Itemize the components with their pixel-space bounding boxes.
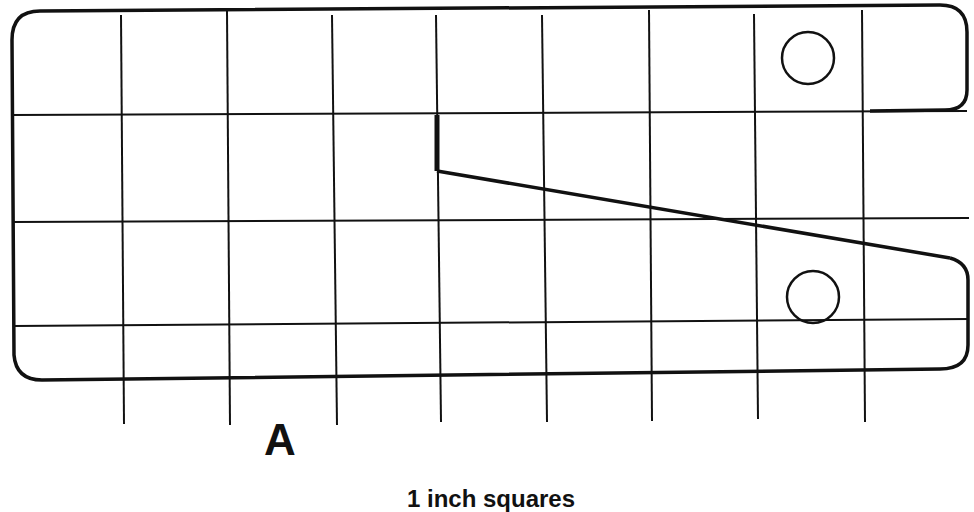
grid-line-h2	[12, 218, 969, 222]
grid-line-v6	[649, 10, 652, 421]
grid-line-v4	[436, 15, 441, 422]
grid-line-v2	[227, 11, 230, 425]
grid-line-v8	[862, 10, 865, 422]
grid-line-v1	[121, 15, 124, 424]
lower-hole-circle	[787, 271, 839, 323]
upper-tab-outline	[12, 5, 967, 111]
lower-body-outline	[12, 40, 968, 380]
grid-lines	[12, 10, 969, 425]
holes	[782, 32, 839, 323]
piece-label: A	[264, 418, 296, 462]
pattern-outline	[12, 5, 968, 380]
grid-line-h1	[12, 111, 967, 115]
grid-line-v7	[754, 14, 758, 419]
upper-hole-circle	[782, 32, 834, 84]
diagonal-cut	[437, 171, 950, 258]
grid-line-v5	[542, 15, 547, 422]
scale-caption: 1 inch squares	[0, 486, 974, 512]
